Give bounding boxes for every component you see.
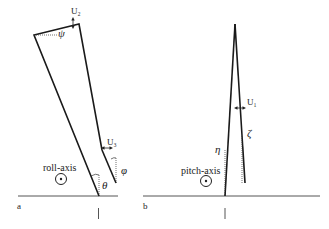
u2-arrowhead-down [71,26,74,30]
label-zeta: ζ [247,128,251,139]
label-u3: U₃ [107,138,117,147]
label-u1: U₁ [247,98,257,107]
pitch-axis-label: pitch-axis [181,166,220,176]
panel-b-drawing [143,24,320,219]
roll-axis-dot-icon [60,178,62,180]
pitch-axis-dot-icon [205,180,207,182]
panel-label-a: a [17,202,21,211]
diagram-root: U₂ ψ U₃ φ θ roll-axis a U₁ η ζ pitch-axi… [0,0,329,229]
label-phi: φ [121,165,127,176]
panel-label-b: b [143,202,148,211]
label-psi: ψ [58,28,65,39]
label-theta: θ [102,180,107,191]
roll-axis-label: roll-axis [43,163,76,173]
u1-arrowhead-left [234,106,238,109]
phi-arc [111,158,116,159]
diagram-canvas [0,0,329,229]
u1-arrowhead-right [243,106,247,109]
pitch-beam-left [225,24,235,196]
theta-arc [91,174,99,176]
pitch-beam-right [235,24,245,183]
u2-arrowhead-up [71,17,74,21]
label-eta: η [215,144,220,155]
label-u2: U₂ [71,7,81,16]
